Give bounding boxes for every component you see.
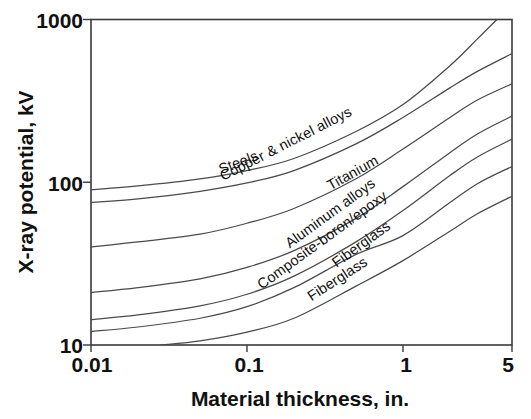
y-axis-ticks [83,20,91,346]
chart-canvas: Copper & nickel alloysSteelsTitaniumAlum… [0,0,531,419]
y-axis-title: X-ray potential, kV [14,90,37,273]
x-tick-label-1: 1 [400,353,412,376]
data-curves [91,20,512,346]
curve-label-copper-nickel-alloys-0: Copper & nickel alloys [217,103,354,183]
plot-frame [91,20,512,346]
x-axis-title: Material thickness, in. [191,387,409,410]
y-tick-label-100: 100 [48,172,83,195]
xray-potential-chart: Copper & nickel alloysSteelsTitaniumAlum… [0,0,531,419]
curve-copper-nickel-alloys [91,20,497,190]
x-tick-label-5: 5 [502,353,514,376]
x-axis-ticks [91,345,512,352]
curve-titanium [91,84,512,247]
x-tick-label-0-01: 0.01 [72,353,113,376]
y-tick-label-1000: 1000 [36,9,83,32]
x-tick-label-0-1: 0.1 [234,353,264,376]
